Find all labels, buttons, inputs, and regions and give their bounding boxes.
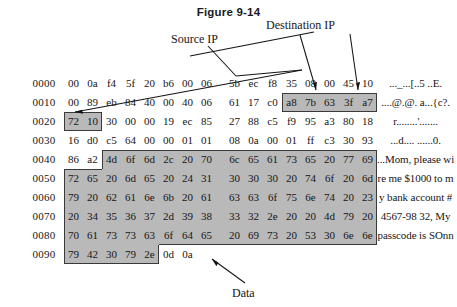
hex-byte: a8 [282, 93, 301, 112]
hex-byte: 20 [282, 226, 301, 245]
hex-dump-row: 00507265206d6520243130303020746f206dre m… [24, 169, 454, 188]
hex-byte: a2 [83, 150, 102, 169]
hex-byte: 16 [64, 131, 83, 150]
hex-byte: 00 [121, 112, 140, 131]
hex-byte: c5 [263, 112, 282, 131]
hex-dump-row: 0020721030000019ec852788c5f995a38018r...… [24, 112, 454, 131]
ascii-column: re me $1000 to m [377, 169, 454, 188]
hex-byte [301, 245, 320, 264]
hex-byte: 62 [102, 188, 121, 207]
hex-byte: c5 [102, 131, 121, 150]
hex-dump-row: 007020343536372d393833322e20204d79204567… [24, 207, 454, 226]
hex-byte: 18 [358, 112, 377, 131]
hex-column-gap [216, 131, 225, 150]
hex-byte: f9 [282, 112, 301, 131]
hex-byte: 73 [102, 226, 121, 245]
hex-byte: 35 [102, 207, 121, 226]
hex-byte: 80 [339, 112, 358, 131]
hex-byte: ec [178, 112, 197, 131]
hex-byte: 42 [83, 245, 102, 264]
ascii-column: y bank account # [377, 188, 454, 207]
hex-byte: 70 [64, 226, 83, 245]
hex-byte: 00 [159, 131, 178, 150]
hex-byte: 79 [64, 245, 83, 264]
hex-byte: 75 [282, 188, 301, 207]
hex-byte: 20 [282, 169, 301, 188]
hex-byte: 20 [140, 74, 159, 93]
hex-byte: 6e [358, 226, 377, 245]
hex-byte: 61 [263, 150, 282, 169]
hex-byte: 79 [64, 188, 83, 207]
hex-byte: 6e [140, 188, 159, 207]
hex-byte: 24 [178, 169, 197, 188]
hex-column-gap [216, 74, 225, 93]
hex-byte: 45 [339, 74, 358, 93]
hex-byte: 6e [301, 188, 320, 207]
hex-byte: ec [244, 74, 263, 93]
hex-byte: 3f [339, 93, 358, 112]
hex-byte: eb [102, 93, 121, 112]
hex-byte: 64 [178, 226, 197, 245]
hex-byte: 85 [197, 112, 216, 131]
hex-byte: 20 [64, 207, 83, 226]
hex-byte: 6d [121, 169, 140, 188]
hex-byte [358, 245, 377, 264]
hex-byte: 2e [263, 207, 282, 226]
hex-byte [263, 245, 282, 264]
hex-byte: 63 [140, 226, 159, 245]
hex-dump-row: 00100089eb84400040066117c0a87b633fa7....… [24, 93, 454, 112]
hex-byte: 30 [102, 112, 121, 131]
hex-byte: 32 [244, 207, 263, 226]
ascii-column: ..._...[..5 ..E. [377, 74, 454, 93]
hex-offset: 0000 [24, 74, 64, 93]
hex-byte: 70 [197, 150, 216, 169]
hex-byte: 61 [197, 188, 216, 207]
hex-byte: 00 [64, 74, 83, 93]
hex-byte: 30 [320, 226, 339, 245]
hex-byte [244, 245, 263, 264]
hex-byte: 06 [197, 74, 216, 93]
ascii-column: 4567-98 32, My [377, 207, 454, 226]
figure-page: Figure 9-14 0000000af45f20b600065becf835… [0, 0, 457, 307]
hex-dump-row: 0000000af45f20b600065becf83508004510..._… [24, 74, 454, 93]
hex-byte: 20 [83, 188, 102, 207]
hex-byte: 34 [83, 207, 102, 226]
hex-byte: 33 [225, 207, 244, 226]
hex-byte: 20 [159, 169, 178, 188]
hex-byte: 61 [225, 93, 244, 112]
hex-byte: 79 [121, 245, 140, 264]
hex-dump-body: 0000000af45f20b600065becf83508004510..._… [24, 74, 454, 264]
hex-offset: 0040 [24, 150, 64, 169]
hex-byte: 20 [339, 188, 358, 207]
hex-byte: 00 [178, 74, 197, 93]
hex-byte: c3 [320, 131, 339, 150]
hex-byte: 6b [159, 188, 178, 207]
hex-byte: 88 [244, 112, 263, 131]
hex-byte: 00 [64, 93, 83, 112]
callout-label-source-ip: Source IP [171, 32, 218, 47]
hex-byte: 00 [140, 131, 159, 150]
source-ip-leader-line [208, 46, 236, 76]
hex-byte: 35 [282, 74, 301, 93]
hex-dump-row: 003016d0c56400000101080a0001ffc33093...d… [24, 131, 454, 150]
hex-byte: a3 [320, 112, 339, 131]
hex-byte: 6f [263, 188, 282, 207]
hex-byte: 0a [178, 245, 197, 264]
hex-byte: a7 [358, 93, 377, 112]
page-title: Figure 9-14 [0, 6, 457, 18]
hex-byte: 0a [83, 74, 102, 93]
hex-column-gap [216, 112, 225, 131]
hex-byte: 61 [83, 226, 102, 245]
hex-byte: 40 [140, 93, 159, 112]
hex-byte: 20 [178, 150, 197, 169]
hex-byte: 69 [358, 150, 377, 169]
hex-byte: 30 [102, 245, 121, 264]
hex-column-gap [216, 226, 225, 245]
hex-byte: 23 [358, 188, 377, 207]
hex-byte: 19 [159, 112, 178, 131]
hex-column-gap [216, 207, 225, 226]
hex-byte: 17 [244, 93, 263, 112]
hex-byte: 01 [282, 131, 301, 150]
hex-byte: 20 [102, 169, 121, 188]
hex-byte: b6 [159, 74, 178, 93]
